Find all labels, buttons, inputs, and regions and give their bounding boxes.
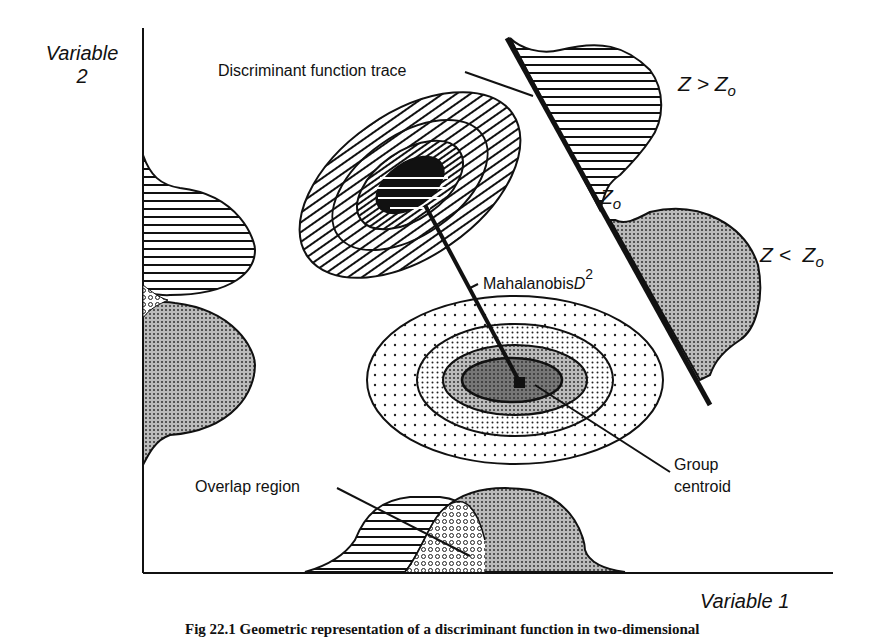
z-greater-label: Z > Zo (678, 72, 736, 99)
z-greater-subscript: o (728, 82, 736, 99)
group-centroid-label: Group centroid (674, 454, 731, 498)
mahalanobis-d: D (574, 275, 586, 292)
z-zero-text: Z (600, 185, 613, 208)
y-axis-label-line2: 2 (32, 65, 132, 88)
figure-caption: Fig 22.1 Geometric representation of a d… (185, 621, 699, 638)
z-zero-subscript: o (613, 195, 621, 212)
mahalanobis-superscript: 2 (585, 266, 593, 282)
z-zero-label: Zo (600, 185, 621, 212)
mahalanobis-label: MahalanobisD2 (483, 270, 593, 293)
left-marginal-group1 (143, 155, 255, 295)
left-marginal-group2 (143, 300, 255, 465)
z-less-text: Z < Z (760, 243, 815, 266)
discriminant-trace-label: Discriminant function trace (218, 62, 407, 80)
overlap-region-label: Overlap region (195, 478, 300, 496)
y-axis-label-line1: Variable (32, 42, 132, 65)
group-centroid-line2: centroid (674, 476, 731, 498)
z-less-subscript: o (815, 253, 823, 270)
mahalanobis-text: Mahalanobis (483, 275, 574, 292)
group-centroid-marker (514, 377, 525, 388)
y-axis-label: Variable 2 (32, 42, 132, 88)
x-axis-label: Variable 1 (700, 590, 789, 613)
group-centroid-line1: Group (674, 454, 731, 476)
z-less-label: Z < Zo (760, 243, 824, 270)
z-greater-text: Z > Z (678, 72, 728, 95)
